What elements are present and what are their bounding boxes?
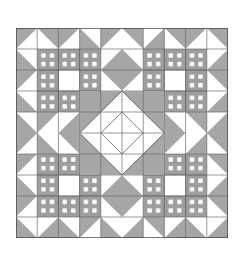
hst-patch [16, 154, 37, 175]
hst-patch [122, 196, 143, 217]
hst-patch [207, 154, 228, 175]
center-diamond-medallion [80, 91, 165, 175]
hst-patch [207, 91, 228, 112]
hst-patch [101, 70, 122, 91]
hst-patch [101, 49, 122, 70]
hst-patch [122, 49, 143, 70]
hst-patch [122, 175, 143, 196]
hst-patch [122, 70, 143, 91]
hst-patch [16, 91, 37, 112]
hst-patch [101, 196, 122, 217]
hst-patch [101, 175, 122, 196]
hst-patch [143, 217, 164, 238]
hst-patch [143, 28, 164, 49]
hst-patch [80, 28, 101, 49]
quilt-block-diagram [0, 0, 245, 263]
hst-patch [80, 217, 101, 238]
quilt-svg-canvas [16, 28, 228, 238]
